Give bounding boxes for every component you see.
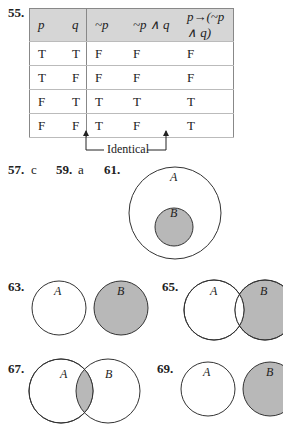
set-label-a: A (53, 284, 62, 298)
cell: T (64, 90, 87, 114)
table-row: T T F F F (30, 42, 234, 66)
problem-number-57: 57. (8, 162, 24, 178)
cell: T (30, 66, 65, 90)
set-label-a: A (202, 365, 211, 379)
venn-diagram-69: A B (178, 359, 283, 423)
identical-label: Identical (107, 142, 149, 157)
cell: T (179, 90, 234, 114)
problem-number-69: 69. (157, 361, 173, 377)
set-label-b: B (260, 284, 268, 298)
venn-diagram-61: A B (125, 163, 225, 263)
header-not-p: ~p (87, 9, 126, 42)
answer-59: a (78, 162, 84, 178)
header-not-p-and-q: ~p ∧ q (125, 9, 179, 42)
problem-number-55: 55. (8, 5, 24, 21)
cell: T (64, 42, 87, 66)
cell: T (125, 90, 179, 114)
cell: F (125, 66, 179, 90)
set-label-b: B (105, 367, 113, 381)
set-label-b: B (170, 206, 178, 220)
venn-diagram-65: A B (183, 277, 283, 347)
cell: F (64, 66, 87, 90)
cell: F (87, 66, 126, 90)
problem-number-61: 61. (104, 162, 120, 178)
cell: F (30, 90, 65, 114)
cell: F (87, 42, 126, 66)
set-label-b: B (266, 365, 274, 379)
cell: F (179, 66, 234, 90)
table-row: T F F F F (30, 66, 234, 90)
cell: F (125, 42, 179, 66)
set-label-a: A (59, 367, 68, 381)
cell: T (87, 90, 126, 114)
set-label-a: A (169, 170, 178, 184)
header-p: p (30, 9, 65, 42)
venn-diagram-63: A B (28, 277, 153, 341)
problem-number-59: 59. (56, 162, 72, 178)
header-q: q (64, 9, 87, 42)
header-implication: p→(~p ∧ q) (179, 9, 234, 42)
problem-number-65: 65. (162, 279, 178, 295)
answer-57: c (31, 162, 37, 178)
table-header-row: p q ~p ~p ∧ q p→(~p ∧ q) (30, 9, 234, 42)
truth-table: p q ~p ~p ∧ q p→(~p ∧ q) T T F F F T F F… (29, 8, 234, 138)
set-label-b: B (117, 284, 125, 298)
set-label-a: A (209, 284, 218, 298)
problem-number-63: 63. (8, 279, 24, 295)
table-row: F T T T T (30, 90, 234, 114)
venn-diagram-67: A B (28, 358, 146, 428)
cell: F (179, 42, 234, 66)
problem-number-67: 67. (8, 361, 24, 377)
cell: T (30, 42, 65, 66)
